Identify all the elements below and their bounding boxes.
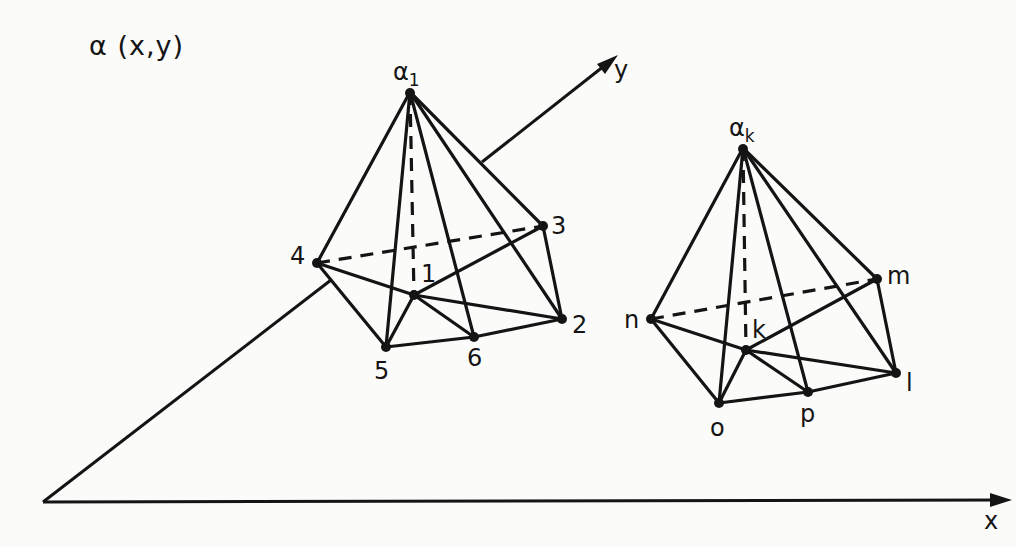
x-axis-arrow-icon <box>990 493 1012 507</box>
pyramid-alpha-1 <box>312 88 567 352</box>
node-3 <box>538 221 548 231</box>
pyramid-diagram <box>0 0 1016 547</box>
node-6 <box>469 332 479 342</box>
apex-label-main: α <box>393 58 409 86</box>
label-node-1: 1 <box>421 262 436 286</box>
label-node-5: 5 <box>374 359 389 383</box>
label-node-4: 4 <box>290 244 305 268</box>
node-l <box>891 368 901 378</box>
apex-label-alpha-k: αk <box>729 116 755 145</box>
y-axis-lower <box>43 280 331 502</box>
axes <box>43 55 1012 507</box>
label-node-2: 2 <box>572 313 587 337</box>
y-axis-label: y <box>614 58 628 82</box>
node-4 <box>312 258 322 268</box>
pyramid-alpha-k <box>646 144 901 408</box>
function-label: α (x,y) <box>89 32 184 59</box>
node-5 <box>381 342 391 352</box>
node-p <box>803 387 813 397</box>
label-node-p: p <box>800 402 815 426</box>
apex-label-main: α <box>729 114 745 142</box>
label-node-m: m <box>887 264 910 288</box>
node-k <box>741 345 751 355</box>
x-axis <box>43 500 1000 502</box>
label-node-3: 3 <box>551 214 566 238</box>
label-node-6: 6 <box>467 346 482 370</box>
apex-label-sub: k <box>745 126 755 146</box>
node-n <box>646 314 656 324</box>
y-axis-upper <box>482 66 604 162</box>
node-o <box>714 398 724 408</box>
apex-label-sub: 1 <box>409 70 420 90</box>
apex-label-alpha-1: α1 <box>393 60 420 89</box>
label-node-o: o <box>710 416 725 440</box>
node-1 <box>409 290 419 300</box>
node-m <box>872 274 882 284</box>
node-2 <box>557 314 567 324</box>
x-axis-label: x <box>984 509 998 533</box>
label-node-n: n <box>624 308 639 332</box>
label-node-l: l <box>906 371 913 395</box>
label-node-k: k <box>752 318 766 342</box>
